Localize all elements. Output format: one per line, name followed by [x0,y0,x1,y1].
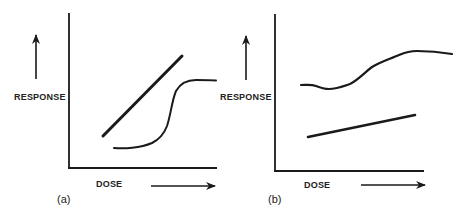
panel-a-y-axis-label: RESPONSE [14,92,66,102]
panel-b-y-axis-label: RESPONSE [220,92,272,102]
panel-b-label: (b) [268,193,281,205]
dose-response-figure: RESPONSE DOSE (a) RESPONSE DOSE (b) [0,0,466,215]
panel-b-wavy-curve [301,51,452,89]
panel-a-linear-curve [103,56,182,136]
panel-b-x-axis-label: DOSE [304,180,330,190]
panel-a-sigmoid-curve [114,80,216,148]
panel-a-label: (a) [57,193,70,205]
panel-a-x-axis-label: DOSE [96,179,122,189]
panel-b-linear-curve [308,115,415,137]
panel-b-axes [274,14,424,172]
panel-b [246,14,452,185]
figure-graphics [0,0,466,215]
